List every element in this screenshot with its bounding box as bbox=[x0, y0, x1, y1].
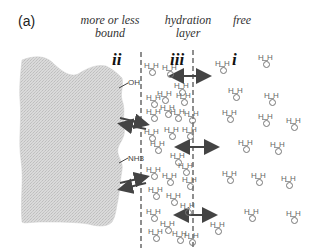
oxygen-atom bbox=[149, 69, 156, 76]
oxygen-atom bbox=[243, 146, 250, 153]
region-numeral-ii: ii bbox=[112, 50, 121, 70]
oxygen-atom bbox=[189, 117, 196, 124]
oxygen-atom bbox=[286, 182, 293, 189]
water-molecule: HH bbox=[244, 208, 262, 224]
region-title-free: free bbox=[222, 14, 262, 27]
water-molecule: HH bbox=[184, 110, 202, 126]
oxygen-atom bbox=[151, 215, 158, 222]
oxygen-atom bbox=[187, 133, 194, 140]
oxygen-atom bbox=[227, 177, 234, 184]
oxygen-atom bbox=[165, 227, 172, 234]
region-title-hydration: hydration layer bbox=[158, 14, 218, 40]
title-line: free bbox=[222, 14, 262, 27]
oxygen-atom bbox=[189, 239, 196, 246]
water-molecule: HH bbox=[286, 210, 304, 226]
oxygen-atom bbox=[291, 124, 298, 131]
oxygen-atom bbox=[167, 179, 174, 186]
oxygen-atom bbox=[256, 179, 263, 186]
oxygen-atom bbox=[175, 115, 182, 122]
water-molecule: HH bbox=[180, 202, 198, 218]
water-molecule: HH bbox=[148, 186, 166, 202]
water-molecule: HH bbox=[148, 228, 166, 244]
water-molecule: HH bbox=[251, 172, 269, 188]
water-molecule: HH bbox=[258, 113, 276, 129]
water-molecule: HH bbox=[222, 170, 240, 186]
water-molecule: HH bbox=[150, 140, 168, 156]
oxygen-atom bbox=[263, 120, 270, 127]
oxygen-atom bbox=[151, 115, 158, 122]
water-molecule: HH bbox=[176, 92, 194, 108]
water-molecule: HH bbox=[184, 232, 202, 248]
oxygen-atom bbox=[269, 99, 276, 106]
water-molecule: HH bbox=[182, 176, 200, 192]
water-molecule: HH bbox=[144, 62, 162, 78]
oxygen-atom bbox=[171, 199, 178, 206]
oxygen-atom bbox=[153, 235, 160, 242]
oxygen-atom bbox=[233, 94, 240, 101]
oxygen-atom bbox=[220, 67, 227, 74]
oxygen-atom bbox=[185, 209, 192, 216]
protein-surface bbox=[20, 57, 125, 226]
panel-label: (a) bbox=[18, 13, 35, 29]
oxygen-atom bbox=[177, 237, 184, 244]
group-oh: OH bbox=[128, 78, 140, 87]
oxygen-atom bbox=[249, 215, 256, 222]
group-nh3: NH3 bbox=[128, 154, 144, 163]
water-molecule: HH bbox=[162, 64, 180, 80]
title-line: layer bbox=[158, 27, 218, 40]
water-molecule: HH bbox=[281, 175, 299, 191]
oxygen-atom bbox=[187, 183, 194, 190]
water-molecule: HH bbox=[238, 139, 256, 155]
water-molecule: HH bbox=[215, 60, 233, 76]
water-molecule: HH bbox=[210, 221, 228, 237]
water-molecule: HH bbox=[264, 92, 282, 108]
water-molecule: HH bbox=[286, 117, 304, 133]
oxygen-atom bbox=[275, 148, 282, 155]
oxygen-atom bbox=[169, 133, 176, 140]
water-molecule: HH bbox=[146, 108, 164, 124]
oxygen-atom bbox=[227, 116, 234, 123]
water-molecule: HH bbox=[270, 141, 288, 157]
region-title-bound: more or less bound bbox=[60, 14, 160, 40]
oxygen-atom bbox=[153, 193, 160, 200]
oxygen-atom bbox=[291, 217, 298, 224]
exchange-arrow-pair-2 bbox=[120, 177, 146, 189]
title-line: bound bbox=[60, 27, 160, 40]
oxygen-atom bbox=[215, 228, 222, 235]
water-molecule: HH bbox=[228, 87, 246, 103]
water-molecule: HH bbox=[182, 126, 200, 142]
hydration-diagram: (a) more or less bound hydration layer f… bbox=[0, 0, 316, 251]
oxygen-atom bbox=[167, 71, 174, 78]
water-molecule: HH bbox=[222, 109, 240, 125]
oxygen-atom bbox=[263, 61, 270, 68]
water-molecule: HH bbox=[258, 54, 276, 70]
oxygen-atom bbox=[181, 99, 188, 106]
oxygen-atom bbox=[155, 147, 162, 154]
oxygen-atom bbox=[151, 173, 158, 180]
